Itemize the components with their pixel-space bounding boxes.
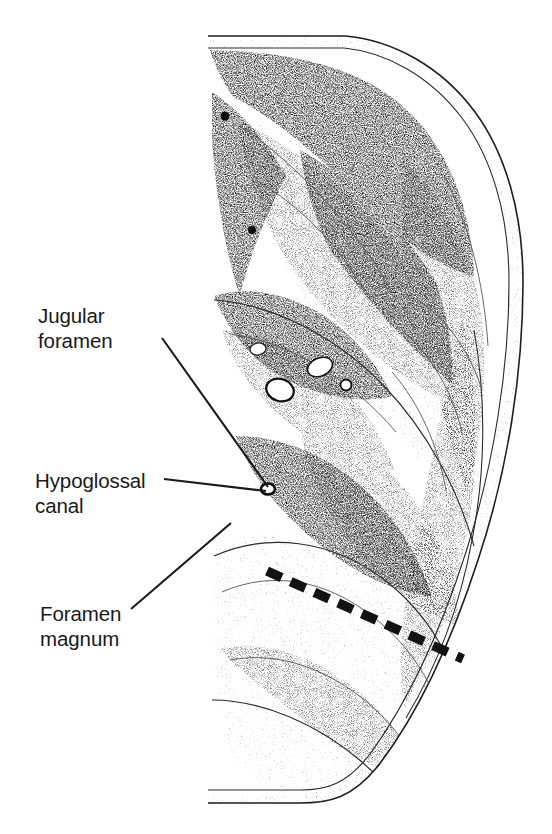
diploe-texture [208,38,525,805]
leader-jugular-foramen [162,338,268,487]
petrous-apex-shading [222,330,460,626]
label-foramen-magnum-line1: Foramen [40,601,121,626]
vascular-groove-2 [404,332,462,432]
fossa-interior-texture [232,110,483,490]
cranial-outline [208,36,523,803]
inner-table-line [208,48,509,790]
label-jugular-foramen: Jugular foramen [38,303,113,353]
hypoglossal-canal-opening[interactable] [261,484,275,495]
suture-line-lateral [444,176,488,346]
label-hypoglossal-canal-line1: Hypoglossal [35,468,146,493]
vascular-groove-1 [418,300,482,390]
label-jugular-foramen-line1: Jugular [38,303,113,328]
occipital-crest-shading [220,646,422,780]
vault-shading-heavy [210,50,474,384]
emissary-foramen [221,112,230,121]
occipital-squama-line [212,700,404,803]
label-foramen-magnum: Foramen magnum [40,601,121,651]
foramen-spinosum [341,380,352,391]
print-grain [208,36,524,803]
occipital-crest-line [230,658,430,790]
dashed-reference-line [267,571,463,659]
internal-acoustic-meatus [249,342,267,357]
foramen-ovale [304,353,335,380]
posterior-fossa-texture [213,533,462,799]
foramina-group [221,112,352,495]
label-hypoglossal-canal-line2: canal [35,493,146,518]
transverse-sulcus-line [214,300,474,546]
sigmoid-sulcus-shading [401,318,476,706]
cerebellar-fossa-contour-inner [222,580,446,736]
anterior-fossa-shading [238,120,484,494]
sigmoid-sulcus-line [406,330,483,718]
petrous-ridge-shading [214,291,432,596]
posterior-fossa-inner-texture [225,568,435,790]
label-hypoglossal-canal: Hypoglossal canal [35,468,146,518]
leader-foramen-magnum [131,523,231,609]
jugular-foramen-opening[interactable] [263,375,296,405]
skull-base-illustration [0,0,552,834]
orbital-plate-contour [256,180,364,290]
leader-hypoglossal-canal [164,479,266,491]
superior-petrosal-line [230,334,396,432]
skull-body [208,36,525,805]
small-foramen-anterior [248,226,256,234]
label-foramen-magnum-line2: magnum [40,626,121,651]
lesser-wing-contour [244,128,392,292]
cerebellar-fossa-contour-outer [214,542,466,722]
label-jugular-foramen-line2: foramen [38,328,113,353]
vascular-groove-3 [392,372,446,490]
figure-root: Jugular foramen Hypoglossal canal Forame… [0,0,552,834]
